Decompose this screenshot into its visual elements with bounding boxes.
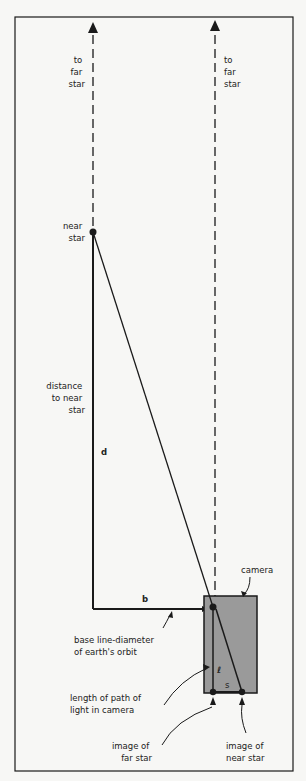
image-far-star-dot (210, 689, 216, 695)
arrow-up-icon (88, 22, 98, 33)
camera-pointer (244, 577, 250, 594)
label-baseline: base line-diameter of earth's orbit (74, 635, 157, 657)
label-s: s (225, 680, 230, 690)
label-d: d (101, 447, 107, 457)
arrow-up-icon (210, 697, 216, 705)
label-image-near: image of near star (226, 741, 266, 763)
label-path-length: length of path of light in camera (70, 693, 144, 715)
right-far-star-ray (210, 20, 220, 600)
near-star-ray (93, 232, 213, 607)
camera-box (204, 596, 257, 693)
path-length-pointer (164, 668, 207, 705)
label-to-far-star-left: to far star (69, 55, 86, 89)
label-camera: camera (241, 565, 273, 575)
label-b: b (142, 594, 148, 604)
arrow-up-icon (239, 697, 245, 705)
label-image-far: image of far star (112, 741, 153, 763)
label-l: ℓ (217, 665, 221, 675)
arrow-icon (168, 611, 173, 618)
label-to-far-star-right: to far star (224, 55, 241, 89)
parallax-diagram: to far star to far star near star distan… (0, 0, 306, 781)
image-near-pointer (242, 705, 247, 733)
arrow-up-icon (210, 20, 220, 31)
label-near-star: near star (63, 221, 86, 243)
label-distance: distance to near star (46, 381, 85, 415)
image-far-pointer (162, 707, 212, 745)
image-near-star-dot (239, 689, 245, 695)
